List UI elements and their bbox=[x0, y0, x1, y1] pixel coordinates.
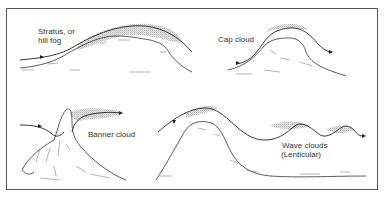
label-banner-line-1: Banner cloud bbox=[88, 130, 135, 139]
lenticular-cloud-1 bbox=[270, 122, 310, 130]
airflow-arrowhead-icon bbox=[119, 111, 123, 115]
banner-cloud-shading bbox=[70, 108, 122, 121]
label-wave-line-2: (Lenticular) bbox=[281, 150, 321, 159]
airflow-arrowhead-icon bbox=[236, 61, 240, 65]
label-cap-line-1: Cap cloud bbox=[218, 35, 254, 44]
label-banner-cloud: Banner cloud bbox=[88, 130, 135, 139]
orographic-clouds-diagram: Stratus, or hill fog Cap cloud bbox=[0, 0, 384, 197]
banner-peak-left-ridge bbox=[22, 170, 34, 174]
airflow-arrowhead-icon bbox=[172, 120, 176, 124]
label-cap-cloud: Cap cloud bbox=[218, 35, 254, 44]
panel-banner-cloud: Banner cloud bbox=[20, 108, 135, 180]
label-wave-line-1: Wave clouds bbox=[282, 141, 328, 150]
label-stratus-line-2: hill fog bbox=[38, 36, 61, 45]
airflow-arrowhead-icon bbox=[362, 134, 366, 138]
label-stratus-line-1: Stratus, or bbox=[38, 27, 75, 36]
panel-wave-clouds: Wave clouds (Lenticular) bbox=[156, 106, 366, 180]
banner-peak-outline bbox=[22, 109, 126, 180]
airflow-arrowhead-icon bbox=[329, 50, 333, 54]
label-stratus: Stratus, or hill fog bbox=[38, 27, 77, 45]
airflow-arrowhead-icon bbox=[40, 55, 44, 59]
panel-stratus-hill-fog: Stratus, or hill fog bbox=[20, 24, 192, 72]
panel-cap-cloud: Cap cloud bbox=[218, 24, 346, 76]
banner-peak-texture bbox=[36, 140, 110, 180]
label-wave-clouds: Wave clouds (Lenticular) bbox=[281, 141, 330, 159]
